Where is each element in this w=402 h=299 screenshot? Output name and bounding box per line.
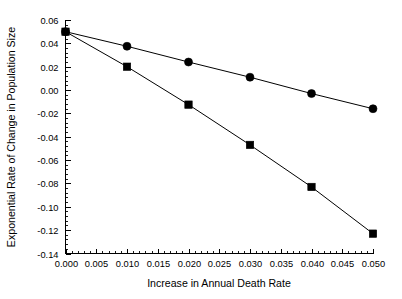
x-tick-label: 0.000 (55, 259, 78, 269)
data-point-circle (246, 73, 254, 81)
y-tick-label: -0.10 (37, 203, 58, 213)
data-point-circle (185, 58, 193, 66)
data-point-square (246, 141, 253, 148)
y-tick-label: -0.14 (37, 250, 58, 260)
data-point-circle (308, 90, 316, 98)
x-tick-label: 0.010 (116, 259, 139, 269)
x-tick-label: 0.040 (301, 259, 324, 269)
y-tick-label: -0.06 (37, 156, 58, 166)
y-tick-label: 0.04 (40, 39, 58, 49)
data-point-circle (369, 105, 377, 113)
data-point-circle (123, 42, 131, 50)
x-tick-labels: 0.0000.0050.0100.0150.0200.0250.0300.035… (55, 259, 385, 269)
data-point-square (369, 230, 376, 237)
x-tick-label: 0.050 (362, 259, 385, 269)
data-point-square (123, 63, 130, 70)
chart-background (0, 0, 402, 299)
x-tick-label: 0.015 (147, 259, 170, 269)
x-tick-label: 0.020 (178, 259, 201, 269)
chart-figure: 0.0000.0050.0100.0150.0200.0250.0300.035… (0, 0, 402, 299)
x-tick-label: 0.005 (85, 259, 108, 269)
x-axis-title: Increase in Annual Death Rate (147, 277, 291, 289)
x-tick-label: 0.035 (270, 259, 293, 269)
y-tick-label: 0.00 (40, 86, 58, 96)
y-tick-label: -0.04 (37, 133, 58, 143)
data-point-square (185, 101, 192, 108)
x-tick-label: 0.045 (331, 259, 354, 269)
data-point-square (308, 183, 315, 190)
y-tick-label: -0.02 (37, 109, 58, 119)
y-tick-label: -0.12 (37, 226, 58, 236)
y-axis-title: Exponential Rate of Change in Population… (5, 27, 17, 247)
x-tick-label: 0.030 (239, 259, 262, 269)
y-tick-label: -0.08 (37, 179, 58, 189)
y-tick-label: 0.02 (40, 63, 58, 73)
y-tick-label: 0.06 (40, 16, 58, 26)
x-tick-label: 0.025 (208, 259, 231, 269)
data-point-square (62, 28, 69, 35)
line-chart: 0.0000.0050.0100.0150.0200.0250.0300.035… (0, 0, 402, 299)
